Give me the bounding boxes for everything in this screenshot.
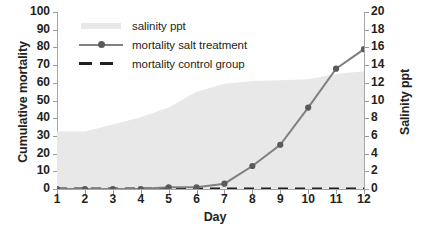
y-axis-right-title: Salinity ppt <box>398 27 412 177</box>
y-axis-right-tick-label: 6 <box>371 128 393 142</box>
x-axis-tick-mark <box>224 190 225 194</box>
x-axis-tick-label: 12 <box>352 192 376 206</box>
x-axis-title: Day <box>45 210 385 224</box>
y-axis-right-tick-mark <box>365 136 369 137</box>
y-axis-left-tick-label: 90 <box>22 22 50 36</box>
salinity-area-series <box>57 71 364 189</box>
y-axis-right-tick-label: 2 <box>371 163 393 177</box>
x-axis-tick-mark <box>252 190 253 194</box>
x-axis-tick-mark <box>141 190 142 194</box>
x-axis-tick-label: 4 <box>129 192 153 206</box>
y-axis-right-tick-mark <box>365 118 369 119</box>
area-swatch-icon <box>79 19 123 33</box>
x-axis-line <box>57 189 365 190</box>
x-axis-tick-mark <box>280 190 281 194</box>
chart-container: Cumulative mortality Salinity ppt Day 01… <box>0 0 424 233</box>
x-axis-tick-label: 11 <box>324 192 348 206</box>
x-axis-tick-label: 8 <box>240 192 264 206</box>
line-marker-swatch-icon <box>79 38 123 52</box>
x-axis-tick-mark <box>169 190 170 194</box>
x-axis-tick-label: 10 <box>296 192 320 206</box>
x-axis-tick-label: 6 <box>185 192 209 206</box>
y-axis-left-tick-label: 60 <box>22 75 50 89</box>
y-axis-right-tick-label: 4 <box>371 146 393 160</box>
y-axis-right-line <box>364 12 365 190</box>
y-axis-right-tick-label: 10 <box>371 93 393 107</box>
y-axis-right-tick-label: 12 <box>371 75 393 89</box>
y-axis-left-tick-label: 40 <box>22 110 50 124</box>
y-axis-right-tick-label: 20 <box>371 4 393 18</box>
y-axis-left-tick-label: 70 <box>22 57 50 71</box>
y-axis-left-tick-label: 80 <box>22 39 50 53</box>
y-axis-left-tick-label: 20 <box>22 146 50 160</box>
legend-label-salinity: salinity ppt <box>132 20 186 32</box>
x-axis-tick-mark <box>336 190 337 194</box>
x-axis-tick-mark <box>364 190 365 194</box>
y-axis-right-tick-label: 18 <box>371 22 393 36</box>
legend-label-control-group: mortality control group <box>132 58 245 70</box>
y-axis-right-tick-label: 16 <box>371 39 393 53</box>
y-axis-right-tick-mark <box>365 101 369 102</box>
x-axis-tick-mark <box>57 190 58 194</box>
x-axis-tick-mark <box>85 190 86 194</box>
y-axis-right-tick-mark <box>365 47 369 48</box>
y-axis-left-tick-label: 50 <box>22 93 50 107</box>
dashed-line-swatch-icon <box>79 57 123 71</box>
x-axis-tick-label: 7 <box>212 192 236 206</box>
data-point <box>221 181 227 187</box>
x-axis-tick-label: 2 <box>73 192 97 206</box>
legend-item-salinity: salinity ppt <box>79 16 247 35</box>
y-axis-right-tick-mark <box>365 154 369 155</box>
x-axis-tick-label: 9 <box>268 192 292 206</box>
data-point <box>333 66 339 72</box>
legend-label-salt-treatment: mortality salt treatment <box>132 39 247 51</box>
legend-item-salt-treatment: mortality salt treatment <box>79 35 247 54</box>
y-axis-right-tick-mark <box>365 30 369 31</box>
x-axis-tick-label: 3 <box>101 192 125 206</box>
x-axis-tick-mark <box>113 190 114 194</box>
x-axis-tick-label: 1 <box>45 192 69 206</box>
y-axis-left-tick-label: 10 <box>22 163 50 177</box>
legend-item-control-group: mortality control group <box>79 54 247 73</box>
x-axis-tick-mark <box>308 190 309 194</box>
x-axis-tick-label: 5 <box>157 192 181 206</box>
data-point <box>305 104 311 110</box>
data-point <box>249 163 255 169</box>
y-axis-right-tick-mark <box>365 189 369 190</box>
y-axis-right-tick-mark <box>365 12 369 13</box>
y-axis-left-tick-label: 100 <box>22 4 50 18</box>
y-axis-right-tick-label: 8 <box>371 110 393 124</box>
x-axis-tick-mark <box>197 190 198 194</box>
y-axis-right-tick-mark <box>365 171 369 172</box>
y-axis-right-tick-mark <box>365 65 369 66</box>
chart-legend: salinity ppt mortality salt treatment mo… <box>79 16 247 73</box>
data-point <box>277 142 283 148</box>
y-axis-left-tick-label: 30 <box>22 128 50 142</box>
y-axis-right-tick-mark <box>365 83 369 84</box>
y-axis-right-tick-label: 14 <box>371 57 393 71</box>
